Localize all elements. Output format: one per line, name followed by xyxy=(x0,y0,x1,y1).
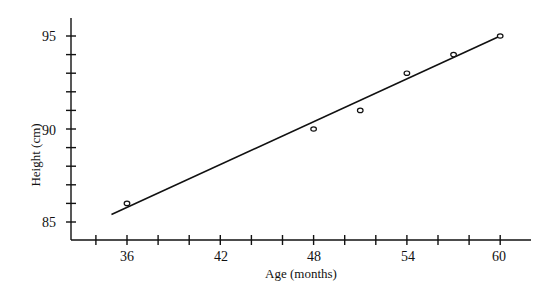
data-point-marker xyxy=(451,52,457,56)
y-axis-title: Height (cm) xyxy=(28,123,43,186)
x-tick-label-36: 36 xyxy=(120,249,134,264)
y-tick-label-90: 90 xyxy=(42,123,56,138)
minor-ticks xyxy=(66,36,500,245)
data-point-marker xyxy=(497,34,503,38)
x-tick-label-54: 54 xyxy=(401,249,415,264)
regression-line xyxy=(111,36,500,215)
y-tick-label-95: 95 xyxy=(42,29,56,44)
fit-line-path xyxy=(111,36,500,215)
data-point-marker xyxy=(124,201,130,205)
x-tick-label-42: 42 xyxy=(214,249,228,264)
x-tick-label-60: 60 xyxy=(492,249,506,264)
data-point-marker xyxy=(404,71,410,75)
x-axis-title: Age (months) xyxy=(265,266,337,281)
data-point-marker xyxy=(357,108,363,112)
data-point-marker xyxy=(311,127,317,131)
y-tick-label-85: 85 xyxy=(42,215,56,230)
data-points xyxy=(124,34,503,206)
scatter-chart: 95 90 85 36 42 48 54 60 Age (months) Hei… xyxy=(0,0,557,299)
axes xyxy=(71,18,531,240)
x-tick-label-48: 48 xyxy=(307,249,321,264)
